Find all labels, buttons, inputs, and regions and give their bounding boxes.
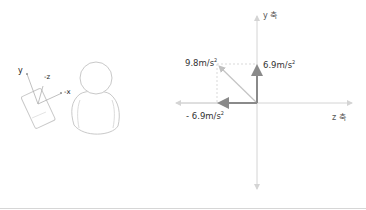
z-component-value-text: - 6.9m/s [186, 111, 221, 121]
z-axis-label: z 축 [332, 114, 346, 122]
z-component-value-label: - 6.9m/s2 [186, 111, 224, 121]
phone-neg-z-axis-label: -z [44, 74, 50, 81]
y-component-value-text: 6.9m/s [263, 60, 292, 70]
phone-y-axis-label: y [18, 67, 23, 75]
phone-neg-x-axis-label: -x [64, 89, 71, 96]
resultant-unit-exponent: 2 [214, 57, 217, 63]
resultant-vector-arrow [220, 67, 257, 103]
resultant-value-label: 9.8m/s2 [185, 58, 217, 68]
z-component-unit-exponent: 2 [221, 110, 224, 116]
resultant-value-text: 9.8m/s [185, 58, 214, 68]
y-component-value-label: 6.9m/s2 [263, 60, 295, 70]
bottom-divider [0, 208, 366, 209]
y-component-unit-exponent: 2 [292, 59, 295, 65]
tilted-phone-icon [21, 88, 56, 129]
y-axis-label: y 축 [263, 12, 277, 20]
person-silhouette-icon [72, 62, 120, 134]
diagram-canvas [0, 0, 366, 210]
